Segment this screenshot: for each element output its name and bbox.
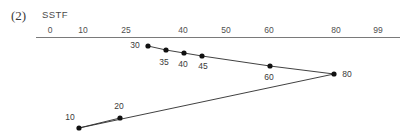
marker-cylinder-40: [181, 50, 186, 55]
sstf-diagram-figure: (2) SSTF 010254050608099 303540456080102…: [0, 0, 413, 140]
axis-tick-label-99: 99: [373, 25, 383, 35]
point-label-35: 35: [159, 57, 169, 67]
marker-cylinder-80: [331, 71, 336, 76]
marker-cylinder-60: [267, 63, 272, 68]
axis-tick-label-50: 50: [221, 25, 231, 35]
data-point-labels: 3035404560801020: [65, 40, 352, 122]
axis-tick-label-10: 10: [78, 25, 88, 35]
axis-tick-label-60: 60: [264, 25, 274, 35]
marker-cylinder-30: [145, 43, 150, 48]
axis-tick-label-40: 40: [178, 25, 188, 35]
point-label-80: 80: [342, 69, 352, 79]
axis-tick-label-25: 25: [121, 25, 131, 35]
marker-cylinder-10: [76, 125, 81, 130]
disk-scheduling-plot: 010254050608099 3035404560801020: [0, 0, 413, 140]
marker-cylinder-45: [199, 53, 204, 58]
axis-tick-labels: 010254050608099: [48, 25, 383, 35]
point-label-10: 10: [65, 112, 75, 122]
point-label-30: 30: [130, 40, 140, 50]
marker-cylinder-35: [163, 47, 168, 52]
point-label-40: 40: [178, 59, 188, 69]
head-movement-path: [79, 46, 334, 128]
marker-cylinder-20: [117, 115, 122, 120]
point-label-45: 45: [198, 61, 208, 71]
point-label-60: 60: [264, 72, 274, 82]
axis-tick-label-0: 0: [48, 25, 53, 35]
axis-tick-label-80: 80: [331, 25, 341, 35]
point-label-20: 20: [114, 101, 124, 111]
